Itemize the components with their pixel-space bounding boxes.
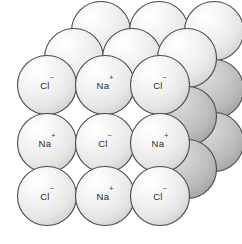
- ion-sphere-chloride: Cl−: [76, 114, 135, 173]
- ion-sphere-chloride: Cl−: [131, 56, 190, 115]
- ion-sphere-chloride: Cl−: [18, 56, 77, 115]
- ion-symbol: Na: [97, 80, 110, 91]
- ion-charge: +: [109, 185, 113, 192]
- ion-symbol: Cl: [98, 138, 107, 149]
- ion-charge: +: [109, 74, 113, 81]
- ion-charge: −: [108, 132, 112, 139]
- ion-charge: −: [50, 74, 54, 81]
- ion-charge: −: [163, 74, 167, 81]
- ion-charge: −: [163, 185, 167, 192]
- ion-symbol: Na: [39, 138, 52, 149]
- ion-charge: +: [51, 132, 55, 139]
- ion-symbol: Cl: [153, 80, 162, 91]
- ion-symbol: Na: [152, 138, 165, 149]
- lattice-layer-front-layer: Cl−Na+Cl−Na+Cl−Na+Cl−Na+Cl−: [18, 56, 190, 226]
- ion-charge: −: [50, 185, 54, 192]
- ion-symbol: Cl: [40, 80, 49, 91]
- nacl-lattice-figure: Cl−Na+Cl−Na+Cl−Na+Cl−Na+Cl−: [0, 0, 242, 244]
- ion-sphere-sodium: Na+: [76, 56, 135, 115]
- ion-sphere-sodium: Na+: [131, 114, 190, 173]
- ion-sphere-sodium: Na+: [18, 114, 77, 173]
- ion-symbol: Cl: [40, 191, 49, 202]
- ion-charge: +: [164, 132, 168, 139]
- ion-sphere-chloride: Cl−: [131, 167, 190, 226]
- ion-sphere-sodium: Na+: [76, 167, 135, 226]
- ion-symbol: Cl: [153, 191, 162, 202]
- ion-symbol: Na: [97, 191, 110, 202]
- lattice-canvas: Cl−Na+Cl−Na+Cl−Na+Cl−Na+Cl−: [0, 0, 242, 244]
- ion-sphere-chloride: Cl−: [18, 167, 77, 226]
